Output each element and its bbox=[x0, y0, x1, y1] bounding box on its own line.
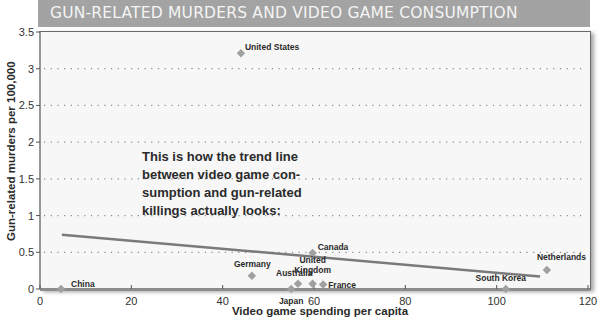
y-tick-label: 3 bbox=[28, 63, 34, 75]
data-point bbox=[319, 280, 327, 288]
y-tick-label: 1.5 bbox=[19, 173, 34, 185]
y-tick-label: 2.5 bbox=[19, 99, 34, 111]
x-tick-label: 100 bbox=[487, 295, 505, 307]
annotation-line: between video game con- bbox=[142, 166, 342, 184]
data-point bbox=[57, 285, 65, 293]
data-point bbox=[294, 280, 302, 288]
annotation-line: This is how the trend line bbox=[142, 148, 342, 166]
annotation-line: sumption and gun-related bbox=[142, 184, 342, 202]
x-tick-label: 20 bbox=[125, 295, 137, 307]
point-label: South Korea bbox=[476, 273, 527, 283]
data-point bbox=[502, 285, 510, 293]
point-label: Germany bbox=[234, 259, 271, 269]
y-tick-label: 0.5 bbox=[19, 246, 34, 258]
point-label: France bbox=[328, 280, 356, 290]
trend-annotation: This is how the trend line between video… bbox=[142, 148, 342, 220]
data-point bbox=[543, 266, 551, 274]
y-tick-label: 1 bbox=[28, 210, 34, 222]
annotation-line: killings actually looks: bbox=[142, 202, 342, 220]
y-tick-label: 0 bbox=[28, 283, 34, 295]
x-tick-label: 120 bbox=[579, 295, 597, 307]
y-tick-label: 3.5 bbox=[19, 26, 34, 38]
point-label: Netherlands bbox=[537, 252, 586, 262]
point-label: United States bbox=[245, 42, 300, 52]
data-point bbox=[287, 285, 295, 293]
data-point bbox=[248, 272, 256, 280]
point-label: China bbox=[71, 279, 95, 289]
data-point bbox=[237, 49, 245, 57]
data-point bbox=[308, 280, 316, 288]
x-axis-label: Video game spending per capita bbox=[210, 305, 430, 317]
x-tick-label: 0 bbox=[37, 295, 43, 307]
y-tick-label: 2 bbox=[28, 136, 34, 148]
y-axis-label: Gun-related murders per 100,000 bbox=[5, 91, 17, 241]
point-label: Canada bbox=[318, 242, 349, 252]
